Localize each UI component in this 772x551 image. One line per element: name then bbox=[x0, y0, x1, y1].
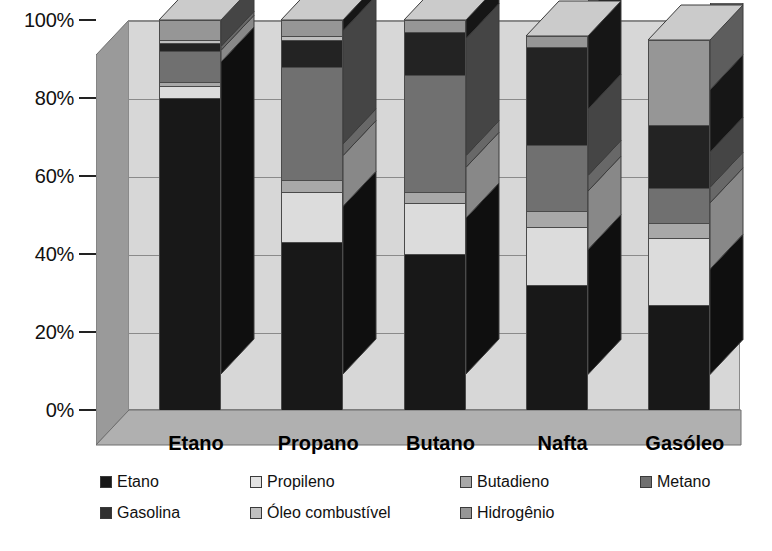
y-tick-label: 0% bbox=[46, 399, 74, 422]
legend-row: GasolinaÓleo combustívelHidrogênio bbox=[100, 505, 760, 531]
bar-segment[interactable] bbox=[648, 188, 710, 223]
bar-segment[interactable] bbox=[281, 20, 343, 36]
bar-front-face bbox=[404, 20, 466, 410]
bar-front-face bbox=[281, 20, 343, 410]
bar-group[interactable] bbox=[648, 20, 710, 410]
legend-item[interactable]: Metano bbox=[640, 474, 710, 490]
legend-swatch-icon bbox=[100, 507, 112, 519]
bar-segment[interactable] bbox=[404, 20, 466, 32]
plot-area bbox=[96, 20, 740, 428]
legend-item[interactable]: Óleo combustível bbox=[250, 505, 391, 521]
legend-swatch-icon bbox=[250, 507, 262, 519]
bar-side-face bbox=[343, 0, 378, 410]
bar-segment[interactable] bbox=[281, 36, 343, 40]
bars-layer bbox=[96, 20, 740, 428]
y-tick-label: 60% bbox=[35, 165, 74, 188]
legend-item[interactable]: Propileno bbox=[250, 474, 335, 490]
bar-side-face bbox=[221, 0, 256, 410]
legend-label: Gasolina bbox=[117, 505, 180, 521]
y-tick-mark bbox=[79, 97, 96, 99]
bar-segment[interactable] bbox=[404, 254, 466, 410]
bar-top-face bbox=[159, 0, 256, 21]
legend-item[interactable]: Butadieno bbox=[460, 474, 549, 490]
x-axis-labels: EtanoPropanoButanoNaftaGasóleo bbox=[96, 432, 740, 466]
y-tick-label: 20% bbox=[35, 321, 74, 344]
legend-label: Butadieno bbox=[477, 474, 549, 490]
legend-label: Óleo combustível bbox=[267, 505, 391, 521]
bar-segment[interactable] bbox=[281, 67, 343, 180]
bar-segment[interactable] bbox=[159, 98, 221, 410]
bar-segment[interactable] bbox=[281, 242, 343, 410]
bar-side-face bbox=[588, 0, 623, 410]
bar-top-face bbox=[526, 0, 623, 37]
legend-label: Hidrogênio bbox=[477, 505, 554, 521]
bar-group[interactable] bbox=[159, 20, 221, 410]
y-tick-mark bbox=[79, 253, 96, 255]
y-tick-mark bbox=[79, 409, 96, 411]
bar-segment[interactable] bbox=[281, 40, 343, 67]
bar-side-face bbox=[710, 3, 745, 411]
bar-segment[interactable] bbox=[404, 192, 466, 204]
bar-top-face bbox=[404, 0, 501, 21]
x-axis-category-label: Gasóleo bbox=[645, 432, 724, 455]
bar-segment[interactable] bbox=[526, 36, 588, 48]
chart-legend: EtanoPropilenoButadienoMetanoGasolinaÓle… bbox=[100, 474, 760, 536]
legend-label: Propileno bbox=[267, 474, 335, 490]
legend-swatch-icon bbox=[100, 476, 112, 488]
bar-side-face bbox=[466, 0, 501, 410]
bar-segment[interactable] bbox=[526, 145, 588, 211]
bar-segment[interactable] bbox=[404, 203, 466, 254]
legend-swatch-icon bbox=[250, 476, 262, 488]
bar-segment[interactable] bbox=[404, 32, 466, 75]
bar-segment[interactable] bbox=[159, 40, 221, 44]
legend-row: EtanoPropilenoButadienoMetano bbox=[100, 474, 760, 500]
y-tick-label: 80% bbox=[35, 87, 74, 110]
stacked-bar-chart: 0%20%40%60%80%100% EtanoPropanoButanoNaf… bbox=[0, 0, 772, 551]
bar-segment[interactable] bbox=[648, 305, 710, 410]
y-tick-mark bbox=[79, 19, 96, 21]
bar-segment[interactable] bbox=[281, 192, 343, 243]
bar-front-face bbox=[648, 40, 710, 411]
bar-top-face bbox=[648, 4, 745, 41]
legend-swatch-icon bbox=[460, 476, 472, 488]
legend-item[interactable]: Etano bbox=[100, 474, 159, 490]
bar-front-face bbox=[526, 36, 588, 410]
y-tick-mark bbox=[79, 331, 96, 333]
bar-segment[interactable] bbox=[648, 125, 710, 187]
y-tick-mark bbox=[79, 175, 96, 177]
bar-segment[interactable] bbox=[281, 180, 343, 192]
bar-segment[interactable] bbox=[159, 82, 221, 86]
y-axis: 0%20%40%60%80%100% bbox=[0, 20, 96, 420]
y-tick-label: 40% bbox=[35, 243, 74, 266]
x-axis-category-label: Propano bbox=[278, 432, 359, 455]
y-tick-label: 100% bbox=[24, 9, 74, 32]
bar-segment[interactable] bbox=[526, 47, 588, 145]
bar-segment[interactable] bbox=[159, 86, 221, 98]
bar-segment[interactable] bbox=[526, 285, 588, 410]
bar-segment[interactable] bbox=[648, 40, 710, 126]
x-axis-category-label: Etano bbox=[168, 432, 224, 455]
bar-group[interactable] bbox=[526, 20, 588, 410]
bar-segment[interactable] bbox=[648, 238, 710, 304]
legend-label: Metano bbox=[657, 474, 710, 490]
bar-segment[interactable] bbox=[159, 43, 221, 51]
bar-group[interactable] bbox=[281, 20, 343, 410]
bar-segment[interactable] bbox=[648, 223, 710, 239]
bar-front-face bbox=[159, 20, 221, 410]
bar-segment[interactable] bbox=[526, 227, 588, 286]
x-axis-category-label: Nafta bbox=[538, 432, 588, 455]
bar-segment[interactable] bbox=[526, 211, 588, 227]
bar-segment[interactable] bbox=[159, 20, 221, 40]
legend-swatch-icon bbox=[460, 507, 472, 519]
legend-swatch-icon bbox=[640, 476, 652, 488]
bar-top-face bbox=[281, 0, 378, 21]
bar-segment[interactable] bbox=[159, 51, 221, 82]
legend-label: Etano bbox=[117, 474, 159, 490]
legend-item[interactable]: Gasolina bbox=[100, 505, 180, 521]
legend-item[interactable]: Hidrogênio bbox=[460, 505, 554, 521]
bar-segment[interactable] bbox=[404, 75, 466, 192]
x-axis-category-label: Butano bbox=[406, 432, 475, 455]
bar-group[interactable] bbox=[404, 20, 466, 410]
